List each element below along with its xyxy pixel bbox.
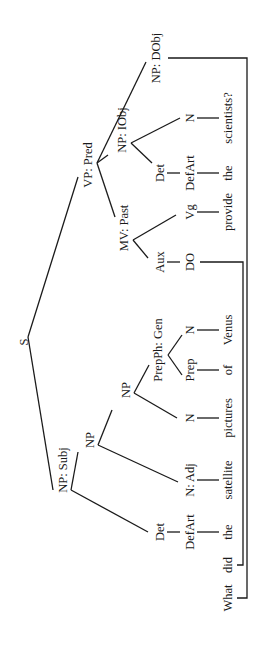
node-do: DO (183, 253, 197, 271)
node-n-venus: N (183, 325, 197, 334)
word-what: What (221, 584, 235, 612)
node-n-pictures: N (183, 413, 197, 422)
node-n-adj: N: Adj (183, 463, 197, 497)
node-s: S (17, 338, 31, 345)
node-np-iobj: NP: IObj (115, 107, 129, 153)
node-defart-1: DefArt (183, 514, 197, 550)
node-vp-pred: VP: Pred (81, 142, 95, 188)
node-np-dobj: NP: DObj (149, 33, 163, 83)
node-mv-past: MV: Past (117, 204, 131, 251)
node-np-subj: NP: Subj (56, 447, 70, 493)
node-prepph-gen: PrepPh: Gen (151, 317, 165, 381)
word-scientists: scientists? (221, 92, 235, 144)
node-vg: Vg (183, 204, 197, 220)
dobj-bracket (168, 58, 247, 598)
node-det-1: Det (153, 522, 167, 541)
word-provide: provide (221, 192, 235, 231)
word-pictures: pictures (221, 398, 235, 438)
syntax-tree-diagram: S VP: Pred NP: Subj NP: IObj NP: DObj MV… (0, 0, 265, 650)
node-aux: Aux (153, 250, 167, 272)
node-np-2: NP (119, 382, 133, 398)
word-satellite: satellite (221, 460, 235, 499)
node-det-2: Det (153, 163, 167, 182)
word-the-2: the (221, 165, 235, 181)
node-np-1: NP (83, 432, 97, 448)
word-of: of (221, 364, 235, 375)
word-the-1: the (221, 524, 235, 540)
node-prep: Prep (183, 359, 197, 382)
node-defart-2: DefArt (183, 155, 197, 191)
tree-edges (28, 58, 247, 598)
tree-nodes: S VP: Pred NP: Subj NP: IObj NP: DObj MV… (17, 33, 197, 550)
word-did: did (221, 556, 235, 573)
word-venus: Venus (221, 315, 235, 346)
sentence-words: What did the satellite pictures of Venus… (221, 92, 235, 612)
node-n-scientists: N (183, 113, 197, 122)
